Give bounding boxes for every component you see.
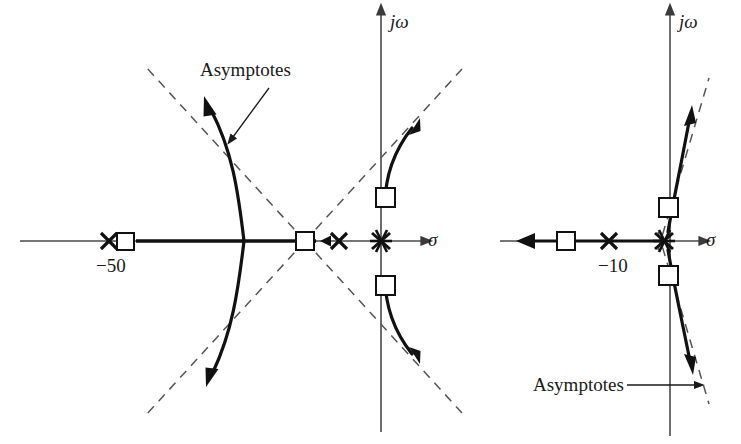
right-square-lower-jomega (659, 266, 678, 285)
left-branch-upper-arrow (204, 96, 217, 117)
left-tick-label-minus50: −50 (96, 256, 126, 275)
left-zero-square-near-minus50 (117, 233, 134, 250)
right-jomega-axis-label: jω (679, 12, 698, 31)
left-asymptotes-annotation-arrow (233, 88, 269, 137)
left-asymptote-ray-60 (305, 69, 462, 241)
left-asymptote-ray-minus60 (305, 241, 462, 413)
left-branch-lower-arrow (206, 368, 219, 388)
left-square-lower-jomega (376, 276, 395, 295)
right-asymptote-ray-lower (658, 232, 709, 404)
right-real-axis-locus-arrow (516, 233, 535, 249)
right-square-upper-jomega (659, 198, 678, 217)
right-tick-label-minus10: −10 (598, 256, 628, 275)
right-pole-x-cluster-origin (653, 230, 675, 252)
root-locus-svg (0, 0, 741, 444)
right-asymptote-ray-upper (658, 78, 709, 250)
left-branch-lower-curve (213, 241, 244, 372)
right-asymptotes-label: Asymptotes (533, 375, 624, 394)
right-zero-square-real-axis (557, 232, 575, 250)
left-asymptote-ray-120 (146, 67, 305, 241)
left-real-axis-locus-arrow (320, 236, 331, 247)
left-asymptote-ray-minus120 (146, 241, 305, 415)
right-branch-upper-arrow (684, 105, 696, 126)
root-locus-figure: Asymptotes −50 σ jω Asymptotes −10 σ jω (0, 0, 741, 444)
right-branch-lower-arrow (684, 354, 696, 375)
left-zero-square-centroid (296, 232, 314, 250)
left-asymptotes-label: Asymptotes (200, 60, 291, 79)
right-plot-group (500, 14, 709, 436)
right-sigma-axis-label: σ (706, 230, 715, 249)
left-jomega-axis-label: jω (390, 12, 409, 31)
left-sigma-axis-label: σ (428, 230, 437, 249)
left-square-upper-jomega (376, 188, 395, 207)
